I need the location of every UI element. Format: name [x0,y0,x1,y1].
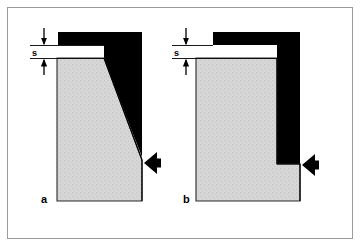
figure-root: s a s b [0,0,360,246]
panel-a-dimension-label: s [32,48,37,58]
figure-background [0,0,360,246]
panel-a-letter: a [41,193,48,205]
panel-b-letter: b [183,193,190,205]
figure-canvas: s a s b [0,0,360,246]
panel-b-dimension-label: s [174,48,179,58]
